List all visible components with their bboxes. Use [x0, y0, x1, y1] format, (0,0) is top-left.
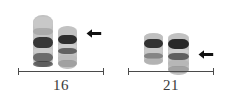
bracket-line — [128, 71, 214, 72]
chromosome-band — [58, 27, 76, 35]
chromosome-label-21: 21 — [128, 78, 214, 93]
chromosome-16-a — [33, 15, 53, 67]
karyotype-figure: 16 21 — [0, 0, 226, 112]
chromosome-band — [144, 58, 162, 64]
bracket-21 — [128, 68, 214, 75]
bracket-tick-right — [103, 68, 104, 75]
chromosome-band — [33, 61, 52, 67]
chromosome-21-a — [144, 33, 163, 65]
chromosome-band — [58, 35, 76, 44]
bracket-tick-right — [213, 68, 214, 75]
chromosome-band — [58, 60, 76, 67]
bracket-line — [18, 71, 104, 72]
chromosome-label-16: 16 — [18, 78, 104, 93]
bracket-16 — [18, 68, 104, 75]
chromosome-16-b — [58, 26, 77, 69]
chromosome-band — [168, 53, 188, 60]
chromosome-band — [58, 48, 76, 54]
left-arrow-marker-21 — [198, 49, 214, 60]
chromosome-band — [144, 39, 162, 48]
chromosome-band — [168, 39, 188, 49]
chromosome-band — [33, 37, 52, 48]
left-arrow-marker-16 — [86, 28, 102, 39]
chromosome-band — [33, 28, 52, 35]
